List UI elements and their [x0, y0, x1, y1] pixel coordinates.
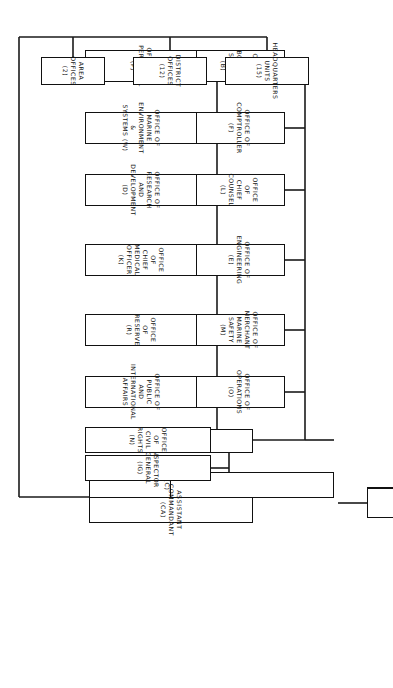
node-office-of-merchant-marine-safety[interactable]: OFFICE OF MERCHANT MARINE SAFETY (M): [193, 314, 285, 346]
node-office-of-public-and-international-affairs[interactable]: OFFICE OF PUBLIC AND INTERNATIONAL AFFAI…: [85, 376, 197, 408]
node-office-of-chief-medical-officer[interactable]: OFFICE OF CHIEF MEDICAL OFFICER (K): [85, 244, 197, 276]
node-office-of-research-and-development[interactable]: OFFICE OF RESEARCH AND DEVELOPMENT (D): [85, 174, 197, 206]
node-office-of-civil-rights[interactable]: OFFICE OF CIVIL RIGHTS (N): [85, 427, 211, 453]
node-office-of-marine-environment-systems[interactable]: OFFICE OF MARINE ENVIRONMENT & SYSTEMS (…: [85, 112, 197, 144]
node-district-offices[interactable]: DISTRICT OFFICES (12): [133, 57, 207, 85]
node-office-of-operations[interactable]: OFFICE OF OPERATIONS (O): [193, 376, 285, 408]
node-office-of-chief-counsel[interactable]: OFFICE OF CHIEF COUNSEL (L): [193, 174, 285, 206]
node-area-offices[interactable]: AREA OFFICES (2): [41, 57, 105, 85]
node-inspector-general[interactable]: INSPECTOR GENERAL (IG): [85, 455, 211, 481]
node-congressional-affairs-staff[interactable]: CONGRESSIONAL AFFAIRS STAFF (CC): [367, 488, 393, 518]
node-headquarters-units[interactable]: HEADQUARTERS UNITS (15): [225, 57, 309, 85]
node-office-of-comptroller[interactable]: OFFICE OF COMPTROLLER (F): [193, 112, 285, 144]
node-office-of-engineering[interactable]: OFFICE OF ENGINEERING (E): [193, 244, 285, 276]
node-assistant-commandant[interactable]: ASSISTANT COMMANDANT (CA): [89, 497, 253, 523]
node-office-of-reserve[interactable]: OFFICE OF RESERVE (R): [85, 314, 197, 346]
chart-canvas: COMMANDANT (C) ASSISTANT COMMANDANT (CA)…: [0, 0, 393, 688]
org-chart: COMMANDANT (C) ASSISTANT COMMANDANT (CA)…: [0, 0, 393, 688]
